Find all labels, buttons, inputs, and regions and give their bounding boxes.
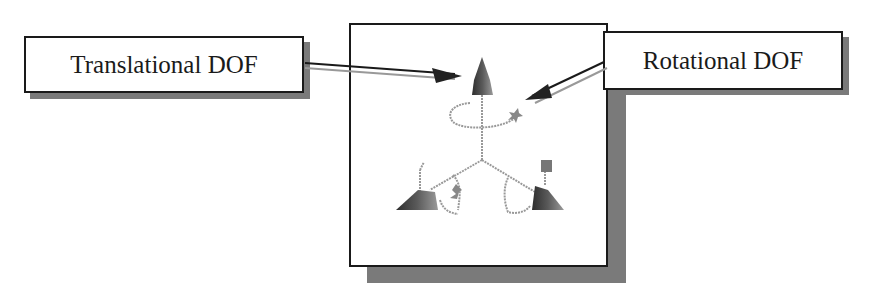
dof-glyph-drawing [0, 0, 872, 295]
translational-cone-icon [472, 57, 493, 95]
rotational-pointer-arrow [525, 62, 607, 103]
vertical-axis [420, 95, 545, 214]
lower-right-cube-icon [541, 160, 552, 172]
translational-pointer-arrow [305, 63, 462, 83]
lower-left-cone-icon [396, 190, 438, 210]
lower-right-cone-icon [532, 186, 564, 210]
